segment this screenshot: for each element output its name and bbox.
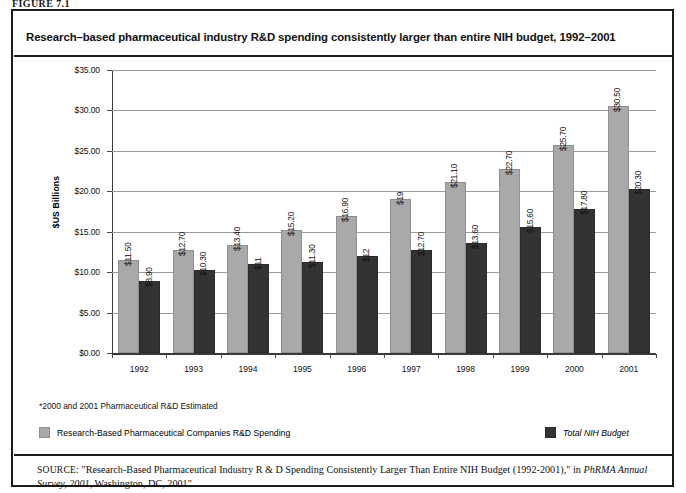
legend-item-1: Research-Based Pharmaceutical Companies … [39, 427, 290, 438]
chart-title: Research–based pharmaceutical industry R… [26, 31, 616, 43]
source-divider [14, 454, 673, 456]
legend-swatch-icon [39, 427, 50, 438]
source-kicker: SOURCE: [37, 464, 79, 475]
title-divider [14, 55, 673, 57]
legend-swatch-icon [545, 427, 556, 438]
legend-label: Total NIH Budget [563, 428, 629, 438]
figure-frame: Research–based pharmaceutical industry R… [11, 9, 674, 487]
chart-footnote: *2000 and 2001 Pharmaceutical R&D Estima… [39, 401, 218, 411]
legend-label: Research-Based Pharmaceutical Companies … [57, 428, 290, 438]
chart-legend: Research-Based Pharmaceutical Companies … [39, 427, 673, 445]
source-note: SOURCE: "Research-Based Pharmaceutical I… [37, 463, 665, 491]
source-text-1: "Research-Based Pharmaceutical Industry … [79, 464, 583, 475]
legend-item-2: Total NIH Budget [545, 427, 629, 438]
figure-number-label: FIGURE 7.1 [12, 0, 70, 9]
source-text-2: , Washington, DC, 2001" [90, 478, 192, 489]
